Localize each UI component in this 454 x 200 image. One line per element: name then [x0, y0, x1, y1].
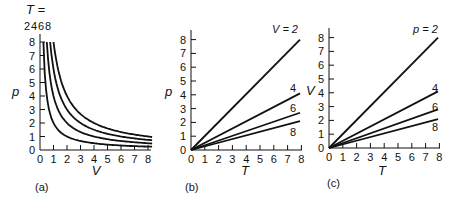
series-line [329, 38, 438, 148]
y-tick-label: 4 [318, 87, 324, 99]
ideal-gas-figure: T = 2 4 6 8 012345678012345678 p V (a) 0… [0, 0, 454, 200]
y-tick-label: 6 [180, 61, 186, 73]
panel-c-label: (c) [327, 177, 340, 189]
x-tick-label: 2 [216, 153, 222, 165]
x-tick-label: 2 [64, 153, 70, 165]
panel-c-lines [329, 38, 438, 148]
x-tick-label: 3 [229, 153, 235, 165]
panel-a-xlabel: V [92, 163, 102, 178]
y-tick-label: 1 [180, 130, 186, 142]
x-tick-label: 5 [395, 151, 401, 163]
y-tick-label: 0 [29, 144, 35, 156]
panel-a-ylabel: p [11, 84, 19, 99]
panel-b-label: (b) [185, 181, 198, 193]
y-tick-label: 8 [318, 32, 324, 44]
x-tick-label: 1 [202, 153, 208, 165]
series-line [329, 91, 438, 148]
panel-c-ylabel: V [306, 83, 316, 98]
y-tick-label: 2 [180, 116, 186, 128]
y-tick-label: 3 [180, 103, 186, 115]
panel-c: 012345678012345678 p = 2 4 6 8 V T (c) [306, 23, 442, 189]
panel-a: T = 2 4 6 8 012345678012345678 p V (a) [11, 2, 152, 193]
series-label-V2: V = 2 [272, 23, 298, 35]
legend-T-4: 4 [31, 20, 37, 32]
panel-b-lines [191, 40, 300, 150]
series-line [191, 93, 300, 150]
panel-b-xlabel: T [241, 163, 250, 178]
x-tick-label: 3 [367, 151, 373, 163]
x-tick-label: 4 [381, 151, 387, 163]
y-tick-label: 5 [180, 75, 186, 87]
x-tick-label: 8 [436, 151, 442, 163]
x-tick-label: 0 [188, 153, 194, 165]
panel-a-curves [43, 42, 152, 147]
series-label-p2: p = 2 [412, 23, 438, 35]
x-tick-label: 6 [271, 153, 277, 165]
series-label-p6: 6 [432, 101, 438, 113]
panel-b: 012345678012345678 V = 2 4 6 8 p T (b) [164, 23, 304, 193]
x-tick-label: 6 [409, 151, 415, 163]
y-tick-label: 8 [29, 36, 35, 48]
y-tick-label: 2 [318, 114, 324, 126]
x-tick-label: 0 [37, 153, 43, 165]
series-label-V6: 6 [290, 102, 296, 114]
x-tick-label: 0 [326, 151, 332, 163]
legend-T-8: 8 [45, 20, 51, 32]
y-tick-label: 3 [318, 101, 324, 113]
panel-b-ylabel: p [164, 84, 172, 99]
series-label-V8: 8 [290, 126, 296, 138]
y-tick-label: 0 [180, 144, 186, 156]
x-tick-label: 1 [340, 151, 346, 163]
y-tick-label: 7 [29, 50, 35, 62]
x-tick-label: 3 [77, 153, 83, 165]
x-tick-label: 1 [50, 153, 56, 165]
y-tick-label: 8 [180, 34, 186, 46]
series-line [191, 113, 300, 150]
y-tick-label: 1 [29, 131, 35, 143]
x-tick-label: 5 [104, 153, 110, 165]
x-tick-label: 8 [298, 153, 304, 165]
series-line [191, 121, 300, 150]
x-tick-label: 7 [285, 153, 291, 165]
series-line [54, 42, 153, 137]
series-line [191, 40, 300, 150]
y-tick-label: 2 [29, 117, 35, 129]
y-tick-label: 1 [318, 128, 324, 140]
series-line [47, 42, 152, 144]
x-tick-label: 6 [118, 153, 124, 165]
legend-header-T: T = [26, 2, 46, 17]
x-tick-label: 2 [354, 151, 360, 163]
series-line [329, 109, 438, 148]
legend-T-2: 2 [24, 20, 30, 32]
x-tick-label: 7 [131, 153, 137, 165]
y-tick-label: 4 [29, 90, 35, 102]
y-tick-label: 5 [318, 73, 324, 85]
panel-a-label: (a) [35, 181, 48, 193]
x-tick-label: 7 [423, 151, 429, 163]
x-tick-label: 8 [145, 153, 151, 165]
series-label-p4: 4 [432, 82, 438, 94]
y-tick-label: 7 [180, 47, 186, 59]
y-tick-label: 3 [29, 104, 35, 116]
x-tick-label: 5 [257, 153, 263, 165]
y-tick-label: 7 [318, 45, 324, 57]
series-label-p8: 8 [432, 121, 438, 133]
panel-c-xlabel: T [378, 163, 387, 178]
panel-a-legend: T = 2 4 6 8 [24, 2, 51, 32]
series-line [329, 119, 438, 148]
y-tick-label: 6 [29, 63, 35, 75]
y-tick-label: 0 [318, 142, 324, 154]
y-tick-label: 6 [318, 59, 324, 71]
legend-T-6: 6 [38, 20, 44, 32]
series-label-V4: 4 [290, 82, 296, 94]
y-tick-label: 5 [29, 77, 35, 89]
y-tick-label: 4 [180, 89, 186, 101]
